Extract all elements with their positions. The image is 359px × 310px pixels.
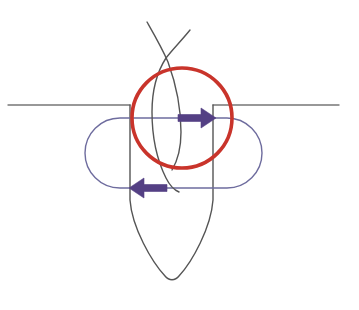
canvas-background: [0, 0, 359, 310]
diagram-svg: [0, 0, 359, 310]
diagram-canvas: [0, 0, 359, 310]
